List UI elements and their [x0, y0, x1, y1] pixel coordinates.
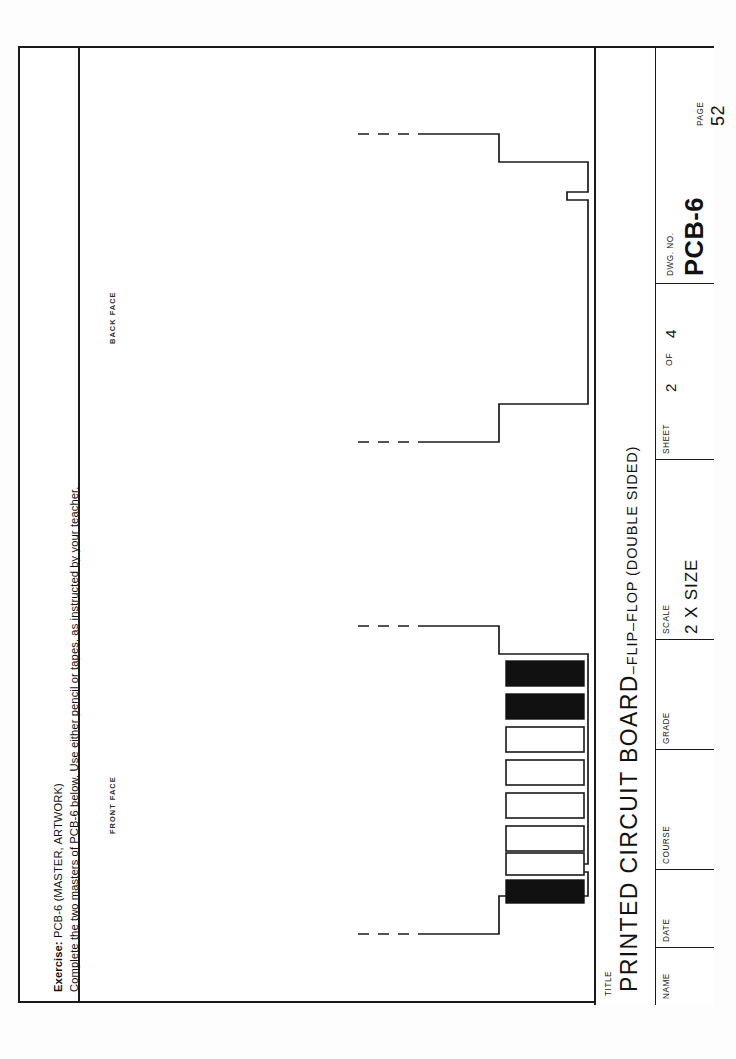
title-sub-text: –FLIP–FLOP (DOUBLE SIDED) [624, 446, 640, 675]
finger-7 [506, 853, 584, 875]
front-face-label: FRONT FACE [108, 776, 117, 834]
finger-6 [506, 826, 584, 851]
margin-strip: Exercise: PCB-6 (MASTER, ARTWORK) Comple… [20, 48, 80, 1001]
drawing-frame: Exercise: PCB-6 (MASTER, ARTWORK) Comple… [18, 46, 714, 1003]
scale-head-label: SCALE [662, 604, 671, 634]
title-value: PRINTED CIRCUIT BOARD–FLIP–FLOP (DOUBLE … [616, 446, 643, 992]
finger-4 [506, 760, 584, 785]
finger-8 [506, 880, 584, 903]
finger-2 [506, 694, 584, 719]
exercise-line-1-rest: PCB-6 (MASTER, ARTWORK) [52, 783, 64, 941]
title-block: TITLE PRINTED CIRCUIT BOARD–FLIP–FLOP (D… [594, 48, 712, 1005]
dwg-no-head-label: DWG. NO. [666, 232, 675, 276]
name-head-label: NAME [662, 973, 671, 999]
dwg-no-value: PCB-6 [680, 197, 709, 276]
course-head-label: COURSE [662, 826, 671, 864]
front-face-artwork [356, 610, 606, 950]
drawing-sheet: Exercise: PCB-6 (MASTER, ARTWORK) Comple… [0, 0, 736, 1059]
exercise-line-1: Exercise: PCB-6 (MASTER, ARTWORK) [52, 783, 64, 992]
edge-connector-fingers [506, 661, 584, 903]
exercise-label: Exercise: [52, 941, 64, 992]
title-main-text: PRINTED CIRCUIT BOARD [616, 674, 642, 992]
finger-3 [506, 727, 584, 752]
scale-value: 2 X SIZE [682, 559, 702, 634]
sheet-total-value: 4 [662, 330, 679, 338]
back-face-label: BACK FACE [108, 291, 117, 344]
page-value: 52 [708, 105, 729, 126]
back-face-board-outline [418, 134, 588, 442]
page-head-label: PAGE [696, 102, 705, 126]
date-head-label: DATE [662, 919, 671, 942]
title-head-label: TITLE [604, 971, 613, 996]
sheet-number-value: 2 [662, 384, 679, 392]
exercise-line-2: Complete the two masters of PCB-6 below.… [68, 487, 80, 993]
back-face-artwork [356, 118, 606, 458]
finger-1 [506, 661, 584, 686]
sheet-of-label: OF [664, 353, 674, 366]
sheet-head-label: SHEET [662, 424, 671, 454]
grade-head-label: GRADE [662, 712, 671, 744]
finger-5 [506, 793, 584, 818]
